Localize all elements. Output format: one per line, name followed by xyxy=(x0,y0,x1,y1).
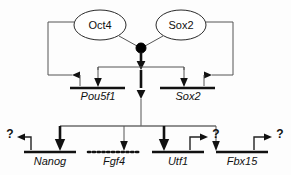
gene-label-utf1: Utf1 xyxy=(168,155,188,167)
arrowhead-complex-trunk-mid xyxy=(137,90,146,99)
diagram-canvas: Oct4 Sox2 Pou5f1 Sox2 xyxy=(0,0,291,175)
tf-node-sox2[interactable]: Sox2 xyxy=(156,10,206,40)
unknown-target-utf1: ? xyxy=(212,127,219,141)
oct4-label: Oct4 xyxy=(88,19,111,31)
unknown-target-fbx15: ? xyxy=(276,127,283,141)
regulatory-network-diagram: Oct4 Sox2 Pou5f1 Sox2 xyxy=(0,0,291,175)
arrowhead-bus-to-pou5f1 xyxy=(94,78,102,87)
arrowhead-bus-to-fbx15 xyxy=(212,141,220,151)
arrowhead-complex-trunk-upper xyxy=(137,61,146,70)
arrowhead-sox2gene-to-sox2-tail xyxy=(204,72,212,79)
gene-label-pou5f1: Pou5f1 xyxy=(81,90,116,102)
edge-utf1-to-unknown xyxy=(190,137,200,150)
arrowhead-bus-to-sox2gene xyxy=(180,78,188,87)
edge-nanog-to-unknown xyxy=(24,137,31,150)
arrowhead-bus-to-nanog xyxy=(55,139,65,151)
unknown-target-nanog: ? xyxy=(6,127,13,141)
gene-label-sox2: Sox2 xyxy=(175,90,200,102)
arrowhead-fbx15-to-unknown xyxy=(264,134,272,141)
edge-sox2-to-complex xyxy=(145,36,163,46)
gene-label-nanog: Nanog xyxy=(34,155,67,167)
arrowhead-pou5f1-to-oct4 xyxy=(72,72,80,79)
arrowhead-utf1-to-unknown xyxy=(200,134,208,141)
arrowhead-bus-to-fgf4 xyxy=(120,141,128,151)
gene-label-fbx15: Fbx15 xyxy=(227,155,258,167)
tf-node-oct4[interactable]: Oct4 xyxy=(74,10,126,40)
edge-fbx15-to-unknown xyxy=(254,137,264,150)
edge-oct4-to-complex xyxy=(119,36,137,46)
oct4-sox2-complex-node[interactable] xyxy=(136,43,146,53)
edge-pou5f1-to-oct4 xyxy=(48,22,74,75)
sox2-label: Sox2 xyxy=(168,19,193,31)
arrowhead-bus-to-utf1 xyxy=(159,139,169,151)
arrowhead-nanog-to-unknown xyxy=(17,134,25,141)
gene-label-fgf4: Fgf4 xyxy=(103,155,125,167)
edge-sox2gene-to-sox2 xyxy=(206,22,233,75)
